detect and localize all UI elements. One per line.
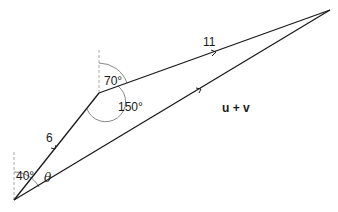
vector-diagram: 6 11 u + v 40° θ 70° 150°: [0, 0, 338, 212]
label-angle-theta: θ: [44, 171, 52, 185]
label-angle-150: 150°: [118, 100, 143, 114]
label-angle-40: 40°: [16, 169, 34, 183]
label-magnitude-v: 11: [203, 35, 216, 49]
label-magnitude-u: 6: [46, 131, 53, 145]
label-angle-70: 70°: [104, 74, 122, 88]
vector-u-plus-v: [14, 10, 330, 200]
arrow-icon-u: [51, 145, 56, 149]
vector-u: [14, 93, 99, 200]
label-resultant: u + v: [222, 101, 250, 115]
